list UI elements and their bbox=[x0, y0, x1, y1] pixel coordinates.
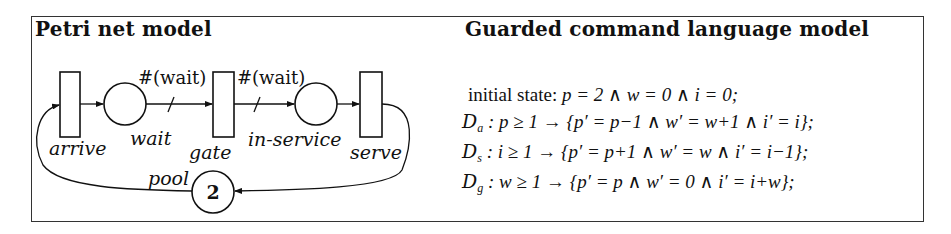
place-label-pool: pool bbox=[148, 167, 189, 189]
command-name: D bbox=[462, 110, 477, 132]
gcl-title: Guarded command language model bbox=[465, 17, 869, 41]
command-guard: : p ≥ 1 → bbox=[488, 111, 567, 132]
command-update: {p′ = p−1 ∧ w′ = w+1 ∧ i′ = i}; bbox=[567, 111, 814, 132]
initial-state-expr: p = 2 ∧ w = 0 ∧ i = 0; bbox=[562, 84, 738, 105]
pool-token-count: 2 bbox=[206, 181, 219, 203]
command-subscript: g bbox=[477, 181, 483, 195]
command-subscript: s bbox=[477, 151, 482, 165]
command-gate: Dg : w ≥ 1 → {p′ = p ∧ w′ = 0 ∧ i′ = i+w… bbox=[462, 166, 814, 196]
command-arrive: Da : p ≥ 1 → {p′ = p−1 ∧ w′ = w+1 ∧ i′ =… bbox=[462, 106, 814, 136]
initial-state: initial state: p = 2 ∧ w = 0 ∧ i = 0; bbox=[468, 80, 814, 106]
command-update: {p′ = p+1 ∧ w′ = w ∧ i′ = i−1}; bbox=[561, 141, 808, 162]
place-in-service bbox=[295, 83, 337, 125]
gcl-model: initial state: p = 2 ∧ w = 0 ∧ i = 0; Da… bbox=[462, 80, 814, 196]
command-guard: : i ≥ 1 → bbox=[487, 141, 561, 162]
transition-label-arrive: arrive bbox=[49, 137, 107, 159]
transition-serve bbox=[360, 72, 382, 137]
command-name: D bbox=[462, 140, 477, 162]
transition-arrive bbox=[60, 72, 80, 137]
arc-weight-label: #(wait) bbox=[138, 67, 206, 88]
petri-net-diagram: #(wait) #(wait) arrive wait gate in-serv… bbox=[0, 0, 460, 234]
transition-gate bbox=[213, 72, 234, 137]
transition-label-gate: gate bbox=[189, 141, 231, 163]
place-label-in-service: in-service bbox=[248, 128, 342, 150]
initial-state-label: initial state: bbox=[468, 84, 557, 105]
command-serve: Ds : i ≥ 1 → {p′ = p+1 ∧ w′ = w ∧ i′ = i… bbox=[462, 136, 814, 166]
command-subscript: a bbox=[477, 121, 483, 135]
place-wait bbox=[104, 83, 146, 125]
arc-weight-label: #(wait) bbox=[237, 67, 305, 88]
transition-label-serve: serve bbox=[350, 141, 402, 163]
command-guard: : w ≥ 1 → bbox=[488, 171, 570, 192]
command-update: {p′ = p ∧ w′ = 0 ∧ i′ = i+w}; bbox=[570, 171, 795, 192]
command-name: D bbox=[462, 170, 477, 192]
place-label-wait: wait bbox=[130, 127, 172, 149]
